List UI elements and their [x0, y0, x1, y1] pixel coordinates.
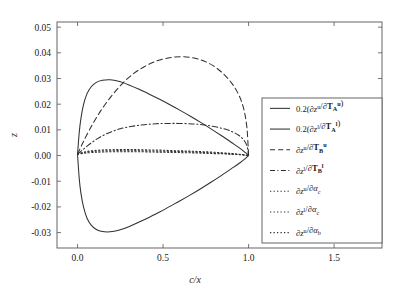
y-tick-label: 0.02: [34, 100, 51, 110]
legend: 0.2(∂zu/∂TAu)0.2(∂zl/∂TAl)∂zu/∂TBu∂zl/∂T…: [262, 98, 382, 243]
y-tick-label: -0.01: [31, 177, 51, 187]
y-axis-title: z: [8, 133, 19, 138]
y-tick-label: -0.02: [31, 202, 51, 212]
x-tick-label: 0.5: [157, 253, 169, 263]
x-tick-label: 1.0: [243, 253, 255, 263]
chart-canvas: 0.00.51.01.5 -0.03-0.02-0.010.000.010.02…: [0, 0, 396, 290]
x-tick-label: 0.0: [72, 253, 84, 263]
y-tick-labels: -0.03-0.02-0.010.000.010.020.030.040.05: [31, 23, 51, 238]
y-tick-label: 0.05: [34, 23, 51, 33]
y-tick-label: 0.03: [34, 74, 51, 84]
y-tick-label: 0.01: [34, 125, 51, 135]
y-tick-label: 0.04: [34, 48, 51, 58]
y-tick-label: -0.03: [31, 228, 51, 238]
x-tick-label: 1.5: [328, 253, 340, 263]
x-axis-title: c/x: [189, 274, 201, 285]
y-tick-label: 0.00: [34, 151, 51, 161]
legend-box: [262, 98, 382, 243]
figure-container: 0.00.51.01.5 -0.03-0.02-0.010.000.010.02…: [0, 0, 396, 290]
